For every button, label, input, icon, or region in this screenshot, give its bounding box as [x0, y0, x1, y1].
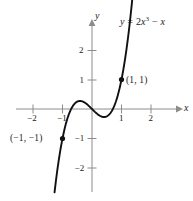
equation-label: y = 2x3 − x	[120, 17, 165, 27]
x-tick-label-neg1: −1	[57, 114, 67, 123]
y-tick-label-pos2: 2	[79, 46, 84, 55]
y-tick-label-pos1: 1	[80, 76, 85, 85]
y-tick-label-neg1: −1	[75, 134, 85, 143]
y-tick-label-neg2: −2	[75, 164, 85, 173]
cartesian-plot	[0, 0, 193, 201]
point-label-neg1: (−1, −1)	[10, 134, 43, 144]
x-tick-label-neg2: −2	[27, 114, 37, 123]
x-axis-label: x	[184, 103, 188, 113]
point-label-pos1: (1, 1)	[126, 76, 147, 86]
data-point-marker-pos1	[119, 77, 124, 82]
x-axis-arrow-icon	[176, 106, 183, 113]
graph-figure: −2 −1 1 2 2 1 −1 −2 x y (1, 1) (−1, −1) …	[0, 0, 193, 201]
y-axis-label: y	[95, 11, 99, 21]
data-point-marker-neg1	[60, 136, 65, 141]
x-tick-label-pos2: 2	[149, 114, 154, 123]
equation-term: x	[160, 16, 165, 27]
x-tick-label-pos1: 1	[119, 114, 124, 123]
cubic-curve	[55, 0, 134, 192]
